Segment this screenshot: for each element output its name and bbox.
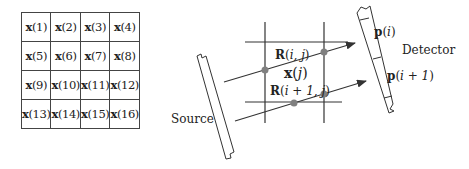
intersection-dot bbox=[262, 67, 269, 74]
pixel-value-label: x(j) bbox=[284, 66, 308, 80]
detector-label: Detector bbox=[402, 44, 455, 56]
intersection-dot bbox=[321, 49, 328, 56]
source-plate bbox=[197, 54, 234, 159]
detector-bin-label: p(i) bbox=[374, 26, 396, 38]
ray-weight-label: R(i + 1, j) bbox=[270, 85, 330, 97]
detector-bin-label: p(i + 1) bbox=[387, 70, 434, 82]
projection-diagram bbox=[0, 0, 469, 169]
detector-plate bbox=[357, 6, 394, 113]
source-label: Source bbox=[171, 113, 214, 125]
ray-weight-label: R(i, j) bbox=[275, 49, 310, 61]
intersection-dot bbox=[291, 100, 298, 107]
